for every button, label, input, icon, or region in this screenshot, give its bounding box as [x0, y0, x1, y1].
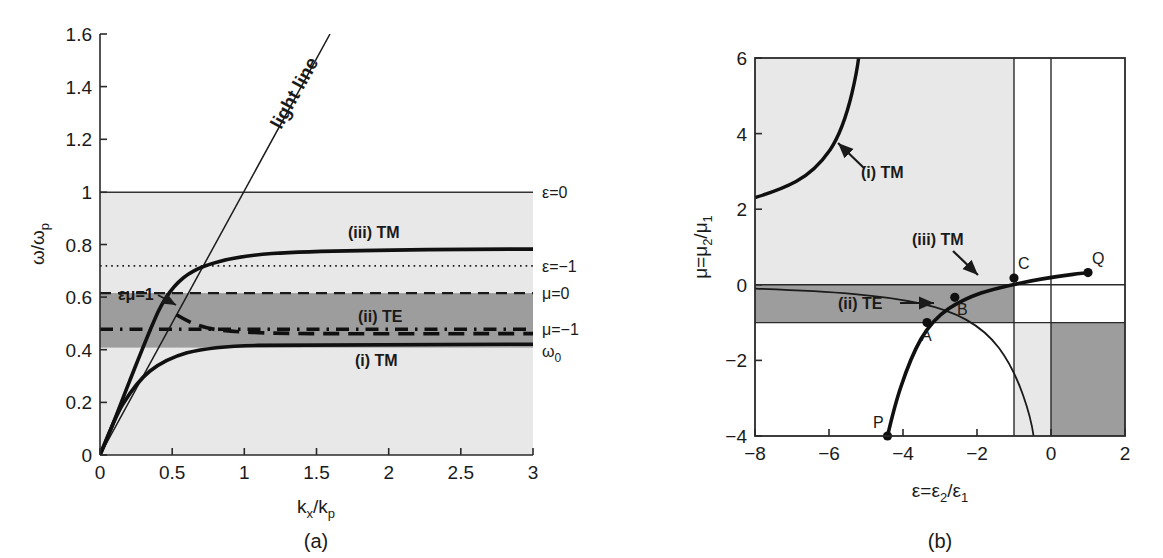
- x-axis-title-slash-k: /k: [313, 496, 328, 517]
- y-axis-title-main: ω/ω: [27, 230, 48, 265]
- panel-a-x-axis-title: kx/kp: [297, 496, 335, 521]
- svg-text:μ=μ2/μ1: μ=μ2/μ1: [690, 215, 715, 279]
- point-C-label: C: [1018, 255, 1030, 272]
- y-tick-8: 1.6: [66, 24, 92, 45]
- right-label-epsilon-0: ε=0: [542, 184, 567, 201]
- b-x-tick-3: −2: [966, 443, 988, 464]
- panel-b-y-axis-title: μ=μ2/μ1: [690, 215, 715, 279]
- b-x-tick-1: −6: [818, 443, 840, 464]
- panel-b-y-tick-labels: −4 −2 0 2 4 6: [725, 48, 747, 447]
- y-tick-1: 0.2: [66, 392, 92, 413]
- x-tick-6: 3: [528, 462, 539, 483]
- region-eps-between-mu-lt-minus1: [1014, 323, 1051, 436]
- label-b-ii-te: (ii) TE: [838, 295, 883, 312]
- svg-text:ω/ωp: ω/ωp: [27, 223, 52, 265]
- x-axis-title-k: k: [297, 496, 307, 517]
- x-tick-3: 1.5: [303, 462, 329, 483]
- panel-a-right-labels: ε=0 ε=−1 μ=0 μ=−1 ω0: [542, 184, 579, 365]
- point-B-label: B: [957, 301, 968, 318]
- y-axis-title-sub: p: [37, 223, 52, 230]
- b-x-title-sub2: 2: [940, 490, 947, 505]
- x-tick-2: 1: [239, 462, 250, 483]
- right-label-mu-minus-1: μ=−1: [542, 321, 579, 338]
- x-axis-title-sub-p: p: [328, 506, 335, 521]
- b-x-title-eps: ε=ε: [912, 480, 941, 501]
- panel-a-x-tick-labels: 0 0.5 1 1.5 2 2.5 3: [95, 462, 539, 483]
- b-y-tick-3: 2: [736, 199, 747, 220]
- svg-text:ε=ε2/ε1: ε=ε2/ε1: [912, 480, 968, 505]
- right-label-mu-0: μ=0: [542, 285, 570, 302]
- panel-a-y-tick-labels: 0 0.2 0.4 0.6 0.8 1 1.2 1.4 1.6: [66, 24, 93, 466]
- panel-b-x-tick-labels: −8 −6 −4 −2 0 2: [744, 443, 1130, 464]
- panel-b: P A B C Q (i) TM (iii) TM (ii) TE: [600, 0, 1163, 558]
- b-y-tick-1: −2: [725, 350, 747, 371]
- b-x-tick-0: −8: [744, 443, 766, 464]
- x-tick-0: 0: [95, 462, 106, 483]
- panel-a-y-axis-title: ω/ωp: [27, 223, 52, 265]
- point-Q-label: Q: [1092, 250, 1104, 267]
- y-tick-7: 1.4: [66, 77, 93, 98]
- panel-a-svg: 0 0.2 0.4 0.6 0.8 1 1.2 1.4 1.6: [0, 0, 600, 558]
- b-y-title-mu: μ=μ: [690, 246, 711, 279]
- region-eps-positive-mu-lt-minus1: [1051, 323, 1125, 436]
- x-tick-4: 2: [383, 462, 394, 483]
- light-line-label: light line: [266, 54, 322, 132]
- b-x-tick-4: 0: [1046, 443, 1057, 464]
- b-x-title-sub1: 1: [961, 490, 968, 505]
- panel-a: 0 0.2 0.4 0.6 0.8 1 1.2 1.4 1.6: [0, 0, 600, 558]
- svg-text:kx/kp: kx/kp: [297, 496, 335, 521]
- y-tick-6: 1.2: [66, 129, 92, 150]
- b-x-tick-5: 2: [1120, 443, 1131, 464]
- y-tick-5: 1: [81, 182, 92, 203]
- panel-b-svg: P A B C Q (i) TM (iii) TM (ii) TE: [600, 0, 1163, 558]
- b-x-title-slash-eps: /ε: [947, 480, 961, 501]
- label-iii-tm: (iii) TM: [348, 224, 400, 241]
- omega-glyph: ω: [542, 343, 555, 360]
- label-ii-te: (ii) TE: [358, 308, 403, 325]
- b-y-tick-4: 4: [736, 124, 747, 145]
- b-y-title-sub1: 1: [700, 215, 715, 222]
- y-tick-4: 0.8: [66, 235, 92, 256]
- right-label-omega-0: ω0: [542, 343, 562, 365]
- panel-b-caption: (b): [928, 530, 952, 552]
- label-b-i-tm: (i) TM: [861, 164, 904, 181]
- point-A-label: A: [921, 327, 932, 344]
- point-P-label: P: [873, 414, 884, 431]
- point-Q-dot: [1083, 268, 1092, 277]
- point-C-dot: [1009, 273, 1018, 282]
- panel-b-x-axis-title: ε=ε2/ε1: [912, 480, 968, 505]
- b-y-tick-2: 0: [736, 275, 747, 296]
- y-tick-0: 0: [81, 445, 92, 466]
- x-tick-5: 2.5: [448, 462, 474, 483]
- y-tick-2: 0.4: [66, 340, 93, 361]
- b-y-tick-5: 6: [736, 48, 747, 69]
- panel-a-caption: (a): [304, 530, 328, 552]
- right-label-epsilon-minus-1: ε=−1: [542, 258, 577, 275]
- point-A-dot: [922, 318, 931, 327]
- figure-root: 0 0.2 0.4 0.6 0.8 1 1.2 1.4 1.6: [0, 0, 1163, 558]
- svg-text:light line: light line: [266, 54, 322, 132]
- b-y-title-slash-mu: /μ: [690, 222, 711, 238]
- b-x-tick-2: −4: [892, 443, 914, 464]
- label-b-iii-tm: (iii) TM: [912, 231, 964, 248]
- y-tick-3: 0.6: [66, 287, 92, 308]
- omega-sub: 0: [555, 351, 562, 365]
- label-i-tm: (i) TM: [355, 352, 398, 369]
- x-tick-1: 0.5: [159, 462, 185, 483]
- emu-equals-one-label: εμ=1: [118, 286, 154, 303]
- b-y-title-sub2: 2: [700, 239, 715, 246]
